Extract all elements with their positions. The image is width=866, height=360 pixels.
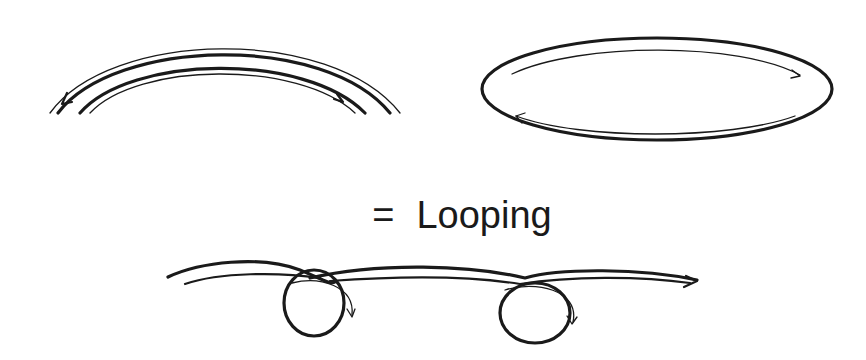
arrow-down-icon (347, 309, 355, 317)
ellipse-outline (482, 38, 832, 140)
diagram-canvas: =Looping (0, 0, 866, 360)
arc-main-stroke (58, 55, 390, 113)
loop-2-arrow-path (505, 286, 574, 322)
loop-circle-1 (284, 270, 344, 336)
ellipse-top-arrow-path (512, 50, 800, 75)
looping-text: Looping (416, 194, 551, 236)
arc-innermost-stroke (90, 74, 355, 113)
ellipse-figure (482, 38, 832, 140)
loop-line-main-inner (330, 278, 690, 284)
arc-figure (50, 49, 400, 113)
looping-label: =Looping (330, 158, 552, 272)
loop-circle-2 (500, 283, 570, 343)
looped-line-figure (168, 262, 697, 343)
equals-sign: = (372, 196, 394, 234)
